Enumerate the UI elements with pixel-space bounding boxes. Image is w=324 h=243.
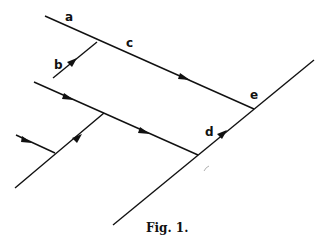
line-lower-diagonal	[15, 113, 104, 188]
label-d: d	[205, 125, 214, 139]
stray-mark	[204, 166, 209, 171]
label-b: b	[54, 58, 63, 72]
arrow-middle-left-icon	[62, 93, 74, 100]
figure-caption: Fig. 1.	[146, 221, 188, 235]
label-e: e	[250, 88, 258, 102]
arrow-middle-right-icon	[138, 127, 150, 134]
line-d-e	[113, 60, 314, 225]
label-c: c	[126, 36, 133, 50]
label-a: a	[65, 10, 73, 24]
arrow-lower-input-icon	[21, 136, 32, 143]
arrow-c-icon	[178, 73, 190, 80]
diagram-canvas: a b c d e Fig. 1.	[0, 0, 324, 243]
line-middle	[34, 82, 198, 155]
line-a-c	[45, 16, 254, 109]
